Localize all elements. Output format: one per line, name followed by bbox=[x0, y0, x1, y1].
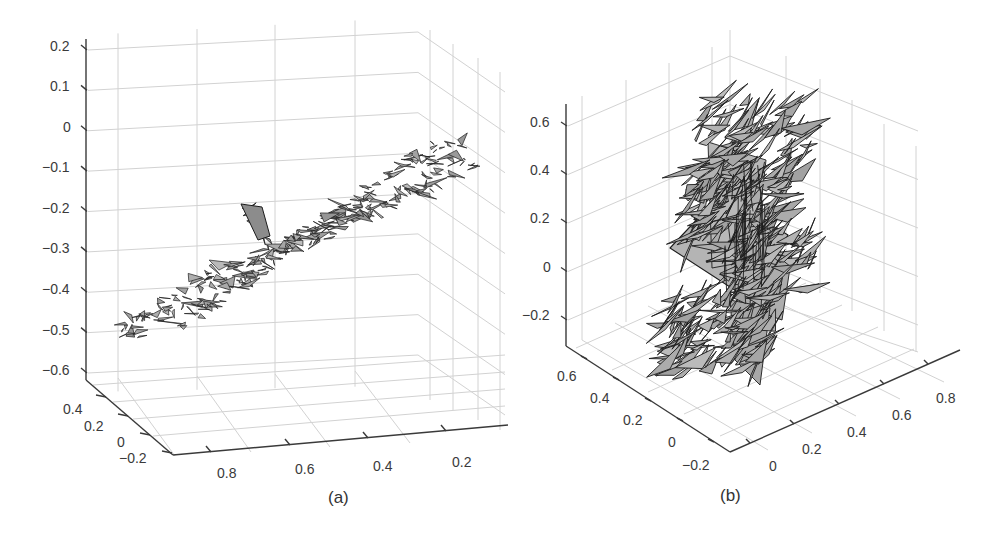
figure-caption-b: (b) bbox=[720, 487, 741, 504]
y-tick-label: −0.2 bbox=[682, 458, 710, 472]
x-tick-label: 0.4 bbox=[847, 425, 866, 439]
x-tick-label: 0.2 bbox=[452, 455, 471, 469]
z-tick-label: 0.4 bbox=[530, 163, 549, 177]
z-tick-label: −0.4 bbox=[42, 282, 70, 296]
x-tick-label: 0.8 bbox=[936, 391, 955, 405]
x-tick-label: 0.8 bbox=[217, 466, 236, 480]
plot-a-mesh-surface bbox=[114, 133, 480, 338]
z-tick-label: −0.6 bbox=[42, 363, 70, 377]
z-tick-label: 0.2 bbox=[50, 39, 69, 53]
z-tick-label: −0.3 bbox=[42, 241, 70, 255]
z-tick-label: −0.2 bbox=[42, 201, 70, 215]
z-tick-label: 0.2 bbox=[530, 211, 549, 225]
y-tick-label: 0.6 bbox=[557, 369, 576, 383]
z-tick-label: 0.6 bbox=[530, 115, 549, 129]
plot-b-mesh-surface bbox=[646, 80, 830, 386]
z-tick-label: 0.1 bbox=[50, 79, 69, 93]
z-tick-label: −0.1 bbox=[42, 160, 70, 174]
chart-panel-a: 0.2 0.1 0 −0.1 −0.2 −0.3 −0.4 −0.5 −0.6 … bbox=[0, 0, 530, 533]
z-tick-label: 0 bbox=[63, 120, 71, 134]
y-tick-label: 0.4 bbox=[63, 402, 82, 416]
x-tick-label: 0.4 bbox=[373, 459, 392, 473]
x-tick-label: 0.6 bbox=[892, 408, 911, 422]
y-tick-label: 0.2 bbox=[84, 419, 103, 433]
y-tick-label: 0 bbox=[117, 435, 125, 449]
y-tick-label: 0.4 bbox=[590, 391, 609, 405]
y-tick-label: −0.2 bbox=[119, 451, 147, 465]
y-tick-label: 0 bbox=[668, 435, 676, 449]
chart-panel-b: 0.6 0.4 0.2 0 −0.2 0.6 0.4 0.2 0 −0.2 0 … bbox=[530, 0, 996, 533]
plot-a-canvas bbox=[0, 0, 530, 533]
z-tick-label: −0.2 bbox=[522, 308, 550, 322]
plot-b-canvas bbox=[530, 0, 996, 533]
x-tick-label: 0.6 bbox=[295, 462, 314, 476]
x-tick-label: 0 bbox=[769, 459, 777, 473]
z-tick-label: −0.5 bbox=[42, 323, 70, 337]
x-tick-label: 0.2 bbox=[802, 442, 821, 456]
z-tick-label: 0 bbox=[543, 260, 551, 274]
y-tick-label: 0.2 bbox=[623, 413, 642, 427]
figure-caption-a: (a) bbox=[328, 489, 349, 506]
